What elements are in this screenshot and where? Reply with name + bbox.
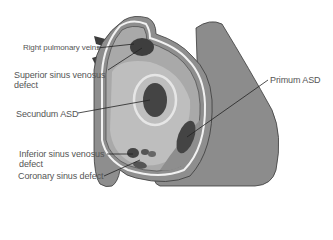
small-defect bbox=[141, 149, 149, 155]
label-line-2: defect bbox=[14, 80, 105, 90]
inferior-sinus-venosus-defect-shape bbox=[127, 148, 139, 158]
small-defect-2 bbox=[148, 151, 156, 157]
label-right-pulmonary-veins: Right pulmonary veins bbox=[23, 43, 100, 53]
label-line-1: Superior sinus venosus bbox=[14, 70, 105, 80]
label-superior-sinus-venosus-defect: Superior sinus venosus defect bbox=[14, 70, 105, 90]
label-line-2: defect bbox=[19, 159, 104, 169]
secundum-asd-shape bbox=[143, 83, 167, 117]
label-line-1: Inferior sinus venosus bbox=[19, 149, 104, 159]
label-secundum-asd: Secundum ASD bbox=[16, 109, 78, 119]
label-coronary-sinus-defect: Coronary sinus defect bbox=[18, 171, 103, 181]
label-primum-asd: Primum ASD bbox=[270, 75, 321, 85]
label-inferior-sinus-venosus-defect: Inferior sinus venosus defect bbox=[19, 149, 104, 169]
